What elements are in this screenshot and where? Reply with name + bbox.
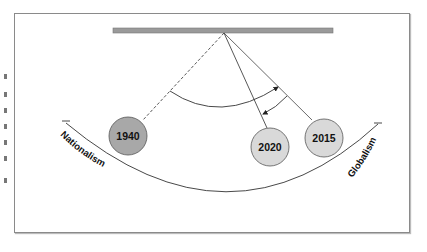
bob-1940: 1940 — [109, 117, 147, 155]
bob-2015: 2015 — [305, 119, 343, 157]
bob-2020-label: 2020 — [258, 141, 282, 153]
bob-2020: 2020 — [251, 128, 289, 166]
pendulum-diagram: 1940 2020 2015 Nationalism Globalism — [0, 0, 427, 252]
swing-arc-arrow — [170, 87, 278, 107]
bob-1940-label: 1940 — [116, 130, 140, 142]
string-2020 — [224, 33, 267, 128]
ceiling-bar — [113, 28, 333, 33]
return-arrow — [263, 96, 287, 114]
bob-2015-label: 2015 — [312, 132, 336, 144]
string-2015 — [224, 33, 312, 120]
globalism-label: Globalism — [345, 135, 378, 179]
